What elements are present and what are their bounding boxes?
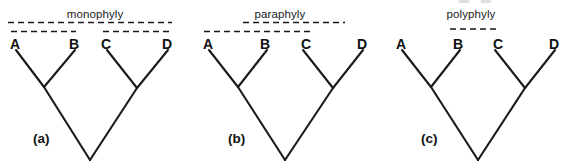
- branch-AB-stem: [238, 87, 285, 160]
- branch-AB-stem: [431, 87, 478, 160]
- taxon-label-a-B: B: [69, 36, 79, 52]
- branch-CD-stem: [90, 88, 137, 160]
- branch-CD-stem: [478, 88, 525, 160]
- branch-C: [303, 50, 333, 88]
- taxon-label-a-C: C: [101, 36, 111, 52]
- branch-B: [238, 50, 267, 87]
- panel-caption-c: (c): [421, 131, 438, 146]
- panel-caption-b: (b): [228, 131, 245, 146]
- taxon-label-b-B: B: [260, 36, 270, 52]
- branch-CD-stem: [285, 88, 333, 160]
- branch-D: [333, 50, 363, 88]
- panel-polyphyly: polyphyly A B C D (c): [375, 0, 567, 166]
- panel-caption-a: (a): [33, 131, 50, 146]
- taxon-label-c-B: B: [453, 36, 463, 52]
- branch-B: [44, 50, 75, 87]
- taxon-label-b-C: C: [301, 36, 311, 52]
- branch-AB-stem: [44, 87, 90, 160]
- panel-paraphyly: paraphyly A B C D (b): [185, 0, 375, 166]
- branch-A: [16, 50, 44, 87]
- taxon-label-c-D: D: [549, 36, 559, 52]
- branch-D: [525, 50, 555, 88]
- cladogram-monophyly: [0, 0, 190, 166]
- branch-C: [495, 50, 525, 88]
- branch-D: [137, 50, 168, 88]
- taxon-label-b-A: A: [203, 36, 213, 52]
- taxon-label-b-D: D: [357, 36, 367, 52]
- branch-B: [431, 50, 460, 87]
- branch-A: [402, 50, 431, 87]
- taxon-label-a-A: A: [10, 36, 20, 52]
- branch-A: [209, 50, 238, 87]
- taxon-label-c-A: A: [396, 36, 406, 52]
- cladogram-paraphyly: [185, 0, 375, 166]
- cladogram-polyphyly: [375, 0, 567, 166]
- panel-monophyly: monophyly A B C D (a): [0, 0, 190, 166]
- figure-cladogram-types: monophyly A B C D (a) paraphyly: [0, 0, 567, 166]
- branch-C: [107, 50, 137, 88]
- taxon-label-a-D: D: [162, 36, 172, 52]
- taxon-label-c-C: C: [493, 36, 503, 52]
